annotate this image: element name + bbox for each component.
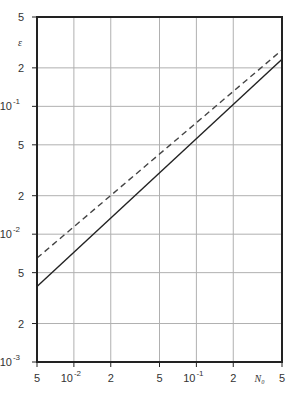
x-tick-label: 2 <box>230 372 236 384</box>
x-tick-label: 5 <box>156 372 162 384</box>
x-axis-label: N₀ <box>254 373 266 384</box>
x-axis-ticks: 510-22510-125 <box>34 362 285 384</box>
y-tick-label: 2 <box>18 190 24 202</box>
x-tick-label: 10-2 <box>61 369 82 384</box>
y-tick-label: 2 <box>18 62 24 74</box>
y-tick-label: 5 <box>18 267 24 279</box>
x-tick-label: 5 <box>34 372 40 384</box>
y-axis-label: ε <box>18 37 22 48</box>
y-tick-label: 10-2 <box>0 225 21 240</box>
grid-lines <box>37 17 282 362</box>
log-log-chart: 510-22510-125 5210-15210-25210-3 ε N₀ <box>0 0 293 403</box>
x-tick-label: 2 <box>108 372 114 384</box>
y-tick-label: 10-1 <box>0 97 21 112</box>
y-tick-label: 5 <box>18 139 24 151</box>
y-tick-label: 2 <box>18 318 24 330</box>
x-tick-label: 10-1 <box>183 369 204 384</box>
y-tick-label: 5 <box>18 11 24 23</box>
x-tick-label: 5 <box>279 372 285 384</box>
y-axis-ticks: 5210-15210-25210-3 <box>0 11 37 368</box>
y-tick-label: 10-3 <box>0 353 21 368</box>
